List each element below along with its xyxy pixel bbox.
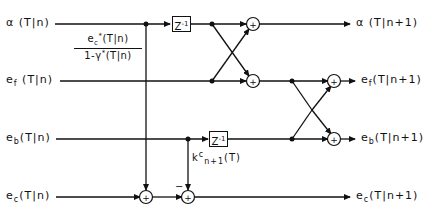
output-ec-label: ec(T|n+1) bbox=[356, 189, 418, 204]
output-ef-label: ef(T|n+1) bbox=[361, 73, 422, 88]
minus-sign: − bbox=[175, 181, 184, 192]
output-alpha-label: α (T|n+1) bbox=[356, 16, 418, 29]
fraction-denominator: 1-γ*(T|n) bbox=[74, 49, 142, 61]
svg-text:+: + bbox=[249, 20, 257, 30]
svg-text:+: + bbox=[330, 77, 338, 87]
fraction-numerator: ec*(T|n) bbox=[74, 32, 142, 49]
input-ec-label: ec(T|n) bbox=[6, 189, 50, 204]
delay-box-eb: Z-1 bbox=[209, 131, 228, 147]
delay-box-alpha: Z-1 bbox=[172, 16, 191, 32]
input-ef-label: ef (T|n) bbox=[6, 73, 53, 88]
svg-text:+: + bbox=[184, 193, 192, 203]
gain-fraction: ec*(T|n) 1-γ*(T|n) bbox=[74, 32, 142, 62]
svg-text:+: + bbox=[249, 77, 257, 87]
input-alpha-label: α (T|n) bbox=[6, 16, 50, 29]
svg-text:+: + bbox=[330, 135, 338, 145]
svg-text:+: + bbox=[142, 193, 150, 203]
coefficient-label: kcn+1(T) bbox=[192, 150, 241, 166]
input-eb-label: eb(T|n) bbox=[6, 131, 51, 146]
output-eb-label: eb(T|n+1) bbox=[361, 131, 424, 146]
signal-flow-diagram: + + + + + + bbox=[0, 0, 435, 216]
